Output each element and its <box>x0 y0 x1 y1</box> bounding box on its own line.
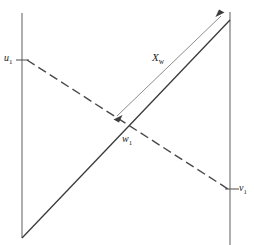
label-w1: w1 <box>122 134 132 147</box>
dashed-diagonal-line <box>27 60 228 189</box>
dimension-arrowhead-lower <box>114 115 123 123</box>
label-u1-sub: 1 <box>9 58 13 66</box>
label-w1-base: w <box>122 133 129 144</box>
label-v1-sub: 1 <box>243 188 247 196</box>
label-xw-sub: w <box>159 57 164 66</box>
figure-canvas <box>0 0 254 245</box>
label-xw: Xw <box>151 51 166 67</box>
dimension-arrow <box>114 10 225 123</box>
label-u1: u1 <box>4 53 13 66</box>
dimension-shaft <box>117 16 221 116</box>
label-xw-base: X <box>152 51 159 63</box>
label-v1: v1 <box>239 183 247 196</box>
label-w1-sub: 1 <box>129 139 133 147</box>
geometry-figure: u1 v1 w1 Xw <box>0 0 254 245</box>
solid-diagonal-line <box>22 20 230 238</box>
dimension-arrowhead-upper <box>216 10 225 18</box>
